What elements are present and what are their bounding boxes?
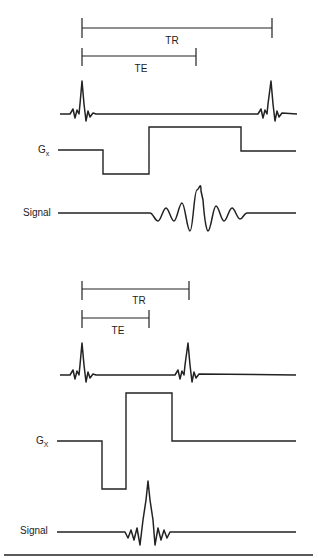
rf-pulse-train [60, 81, 297, 121]
te-label: TE [112, 325, 125, 336]
signal-label: Signal [20, 525, 48, 536]
gradient-label: Gx [38, 144, 50, 157]
gx-gradient-waveform [58, 127, 296, 174]
gx-gradient-waveform [57, 393, 296, 489]
echo-signal-waveform [58, 186, 296, 231]
tr-label: TR [165, 35, 178, 46]
pulse-sequence-diagram: TR TE Gx Signal TR TE [0, 0, 318, 558]
signal-label: Signal [23, 207, 51, 218]
panel-short-tr: TR TE GX Signal [20, 281, 296, 545]
echo-signal-waveform [57, 481, 296, 545]
tr-label: TR [132, 295, 145, 306]
te-label: TE [135, 63, 148, 74]
panel-long-tr: TR TE Gx Signal [23, 18, 297, 231]
gradient-label: GX [36, 435, 49, 448]
rf-pulse-train [60, 343, 296, 382]
